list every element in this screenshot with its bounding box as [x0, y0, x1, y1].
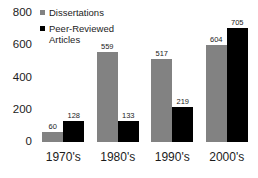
bar-chart: 0200400600800 60128559133517219604705 19… [0, 0, 258, 178]
bar-value-label: 128 [57, 112, 91, 120]
bar-rect[interactable] [42, 132, 63, 142]
bar-value-label: 133 [111, 112, 145, 120]
legend-swatch-articles-icon [40, 26, 45, 31]
x-axis-tick-label: 1980's [91, 150, 146, 164]
bar-value-label: 219 [166, 98, 200, 106]
bar-rect[interactable] [118, 121, 139, 142]
legend-swatch-dissertations-icon [40, 10, 45, 15]
legend-item[interactable]: Dissertations [40, 7, 160, 19]
y-axis-tick-label: 600 [0, 39, 32, 51]
bar-articles[interactable]: 705 [227, 13, 248, 142]
y-axis: 0200400600800 [0, 0, 32, 178]
bar-rect[interactable] [206, 45, 227, 142]
bar-rect[interactable] [227, 28, 248, 142]
legend-item-label: Peer-Reviewed Articles [49, 23, 123, 46]
bar-articles[interactable]: 219 [172, 13, 193, 142]
x-axis-tick-label: 1970's [36, 150, 91, 164]
bar-rect[interactable] [97, 52, 118, 142]
bar-rect[interactable] [172, 107, 193, 142]
x-axis: 1970's1980's1990's2000's [36, 150, 254, 170]
y-axis-tick-label: 200 [0, 104, 32, 116]
bar-dissertations[interactable]: 604 [206, 13, 227, 142]
legend-item-label: Dissertations [49, 7, 104, 19]
bar-value-label: 705 [220, 19, 254, 27]
y-axis-tick-label: 0 [0, 136, 32, 148]
bar-group: 604705 [200, 13, 255, 142]
bar-group-bars: 604705 [200, 13, 255, 142]
chart-legend: DissertationsPeer-Reviewed Articles [40, 7, 160, 50]
bar-rect[interactable] [63, 121, 84, 142]
legend-item[interactable]: Peer-Reviewed Articles [40, 23, 160, 46]
y-axis-tick-label: 800 [0, 7, 32, 19]
x-axis-tick-label: 1990's [145, 150, 200, 164]
y-axis-tick-label: 400 [0, 72, 32, 84]
x-axis-tick-label: 2000's [200, 150, 255, 164]
